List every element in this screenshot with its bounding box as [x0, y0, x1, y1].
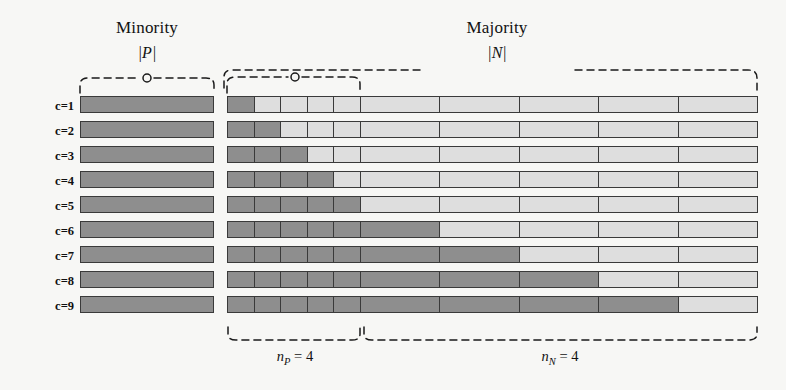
n-group-cell	[519, 146, 600, 163]
p-group-cell	[333, 96, 361, 113]
n-group-cell	[598, 171, 679, 188]
p-group-cell	[333, 171, 361, 188]
p-group-cell	[227, 246, 255, 263]
majority-p-group-brace	[227, 73, 360, 93]
p-group-cell	[280, 96, 308, 113]
n-group-cell	[439, 146, 520, 163]
p-group-cell	[254, 96, 282, 113]
majority-row-c5	[0, 196, 786, 213]
p-group-cell	[333, 196, 361, 213]
minority-heading: Minority	[80, 18, 214, 38]
figure-canvas: Minority |P| Majority |N| c=1 c=2 c=3 c=…	[0, 0, 786, 390]
n-group-cell	[360, 121, 441, 138]
p-group-cell	[254, 296, 282, 313]
n-group-cell	[598, 121, 679, 138]
n-group-cell	[439, 296, 520, 313]
majority-row-c2	[0, 121, 786, 138]
nn-value: 4	[571, 348, 578, 364]
n-group-cell	[439, 171, 520, 188]
n-group-cell	[360, 296, 441, 313]
p-group-cell	[254, 246, 282, 263]
n-group-cell	[439, 196, 520, 213]
p-group-cell	[280, 271, 308, 288]
n-group-cell	[360, 221, 441, 238]
p-group-cell	[227, 146, 255, 163]
n-group-cell	[598, 271, 679, 288]
n-group-cell	[519, 221, 600, 238]
p-group-cell	[254, 221, 282, 238]
n-group-cell	[519, 171, 600, 188]
n-group-cell	[519, 121, 600, 138]
p-group-cell	[333, 121, 361, 138]
p-group-cell	[333, 246, 361, 263]
n-group-cell	[360, 171, 441, 188]
n-group-cell	[360, 271, 441, 288]
n-group-cell	[598, 96, 679, 113]
nn-symbol: n	[542, 348, 549, 364]
majority-row-c9	[0, 296, 786, 313]
p-group-cell	[307, 171, 335, 188]
nn-subscript: N	[549, 356, 556, 367]
np-value: 4	[306, 348, 313, 364]
p-group-cell	[227, 196, 255, 213]
n-group-cell	[678, 246, 759, 263]
p-group-cell	[307, 96, 335, 113]
n-group-cell	[519, 296, 600, 313]
n-group-cell	[519, 271, 600, 288]
n-group-cell	[678, 196, 759, 213]
n-group-cell	[678, 296, 759, 313]
p-group-cell	[227, 171, 255, 188]
majority-heading: Majority	[427, 18, 567, 38]
p-group-cell	[254, 121, 282, 138]
n-group-cell	[598, 221, 679, 238]
n-group-cell	[598, 246, 679, 263]
n-group-cell	[598, 196, 679, 213]
p-group-cell	[254, 196, 282, 213]
n-group-cell	[360, 246, 441, 263]
majority-group-size-label: nN = 4	[503, 348, 617, 367]
n-group-cell	[598, 146, 679, 163]
n-group-cell	[678, 146, 759, 163]
n-group-cell	[439, 221, 520, 238]
np-equals: =	[294, 348, 302, 364]
p-group-cell	[307, 246, 335, 263]
minority-cardinality-label: |P|	[80, 44, 214, 62]
n-group-cell	[439, 271, 520, 288]
nn-equals: =	[559, 348, 567, 364]
n-group-cell	[439, 121, 520, 138]
p-group-cell	[333, 221, 361, 238]
majority-top-brace	[224, 70, 757, 90]
p-group-cell	[254, 146, 282, 163]
n-group-cell	[360, 196, 441, 213]
p-group-cell	[333, 271, 361, 288]
p-group-cell	[307, 196, 335, 213]
p-group-cell	[227, 96, 255, 113]
p-group-cell	[280, 246, 308, 263]
p-group-cell	[280, 121, 308, 138]
p-group-cell	[280, 296, 308, 313]
n-group-cell	[519, 196, 600, 213]
n-group-cell	[439, 96, 520, 113]
n-group-cell	[678, 221, 759, 238]
p-group-cell	[227, 121, 255, 138]
n-group-cell	[598, 296, 679, 313]
p-group-cell	[307, 146, 335, 163]
minority-group-size-label: nP = 4	[238, 348, 352, 367]
p-group-cell	[280, 221, 308, 238]
p-group-cell	[307, 271, 335, 288]
majority-row-c8	[0, 271, 786, 288]
n-group-cell	[519, 96, 600, 113]
n-group-cell	[678, 96, 759, 113]
majority-row-c4	[0, 171, 786, 188]
p-group-cell	[307, 221, 335, 238]
np-subscript: P	[284, 356, 290, 367]
p-group-cell	[307, 121, 335, 138]
p-group-cell	[280, 146, 308, 163]
majority-group-bottom-brace	[364, 327, 757, 340]
p-group-cell	[254, 171, 282, 188]
majority-row-c7	[0, 246, 786, 263]
n-group-cell	[678, 171, 759, 188]
n-group-cell	[360, 146, 441, 163]
p-group-cell	[333, 146, 361, 163]
p-group-cell	[280, 196, 308, 213]
